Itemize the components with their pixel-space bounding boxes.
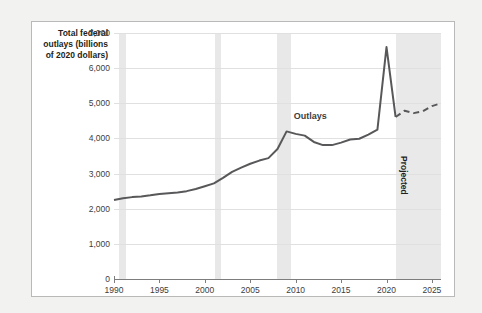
y-tick-label: 3,000 bbox=[68, 169, 110, 179]
x-tick-label: 2010 bbox=[276, 285, 316, 295]
y-tick-label: 7,000 bbox=[68, 28, 110, 38]
x-tick-label: 2005 bbox=[230, 285, 270, 295]
x-tick-label: 1990 bbox=[94, 285, 134, 295]
x-tick-label: 2025 bbox=[412, 285, 452, 295]
plot-area: 01,0002,0003,0004,0005,0006,0007,000 199… bbox=[114, 33, 441, 279]
series-line-outlays bbox=[114, 47, 396, 200]
x-tick bbox=[114, 279, 115, 283]
y-tick-label: 1,000 bbox=[68, 239, 110, 249]
x-tick-label: 2000 bbox=[185, 285, 225, 295]
x-tick-label: 2015 bbox=[321, 285, 361, 295]
series-line-projected bbox=[396, 103, 441, 117]
x-axis-line bbox=[114, 279, 441, 280]
x-tick bbox=[296, 279, 297, 283]
x-tick bbox=[250, 279, 251, 283]
outlays-annotation-label: Outlays bbox=[294, 111, 327, 121]
x-tick bbox=[432, 279, 433, 283]
y-tick-label: 0 bbox=[68, 274, 110, 284]
data-series-group bbox=[114, 33, 441, 279]
x-tick-label: 2020 bbox=[367, 285, 407, 295]
x-tick bbox=[205, 279, 206, 283]
chart-figure: Total federal outlays (billions of 2020 … bbox=[31, 21, 455, 297]
y-tick-label: 6,000 bbox=[68, 63, 110, 73]
y-tick-label: 2,000 bbox=[68, 204, 110, 214]
x-tick-label: 1995 bbox=[139, 285, 179, 295]
projected-annotation-label: Projected bbox=[399, 156, 409, 195]
x-tick bbox=[341, 279, 342, 283]
y-tick-label: 4,000 bbox=[68, 133, 110, 143]
y-tick-label: 5,000 bbox=[68, 98, 110, 108]
x-tick bbox=[387, 279, 388, 283]
x-tick bbox=[159, 279, 160, 283]
